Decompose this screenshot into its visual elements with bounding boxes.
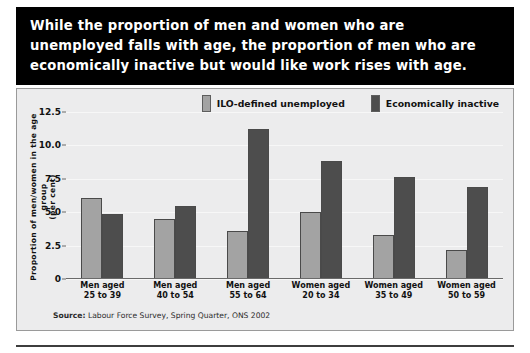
- bar[interactable]: [467, 187, 488, 279]
- bar-groups: [66, 112, 503, 279]
- bar-group: [81, 112, 123, 279]
- category-label: Women aged50 to 59: [433, 281, 501, 300]
- category-label-line: Men aged: [141, 281, 209, 291]
- source-prefix: Source:: [53, 311, 86, 320]
- category-label-line: 55 to 64: [214, 291, 282, 301]
- bottom-rule: [16, 345, 514, 347]
- category-label: Men aged40 to 54: [141, 281, 209, 300]
- legend-item-unemployed: ILO-defined unemployed: [202, 95, 345, 112]
- category-label-line: 40 to 54: [141, 291, 209, 301]
- chart-panel: ILO-defined unemployed Economically inac…: [16, 88, 514, 331]
- y-tick-label: 10.0: [39, 140, 61, 150]
- bar[interactable]: [394, 177, 415, 279]
- plot-area: 02.55.07.510.012.5: [66, 112, 503, 279]
- chart-legend: ILO-defined unemployed Economically inac…: [17, 95, 513, 112]
- category-label-line: Women aged: [360, 281, 428, 291]
- bar-group: [446, 112, 488, 279]
- bar[interactable]: [446, 250, 467, 279]
- bar-group: [227, 112, 269, 279]
- legend-label-unemployed: ILO-defined unemployed: [217, 98, 345, 109]
- bar[interactable]: [248, 129, 269, 279]
- category-label-line: 25 to 39: [68, 291, 136, 301]
- source-text: Labour Force Survey, Spring Quarter, ONS…: [88, 311, 270, 320]
- y-axis-title: Proportion of men/women in the age group…: [29, 111, 45, 283]
- gridline: [66, 279, 503, 280]
- category-label: Women aged20 to 34: [287, 281, 355, 300]
- bar[interactable]: [81, 198, 102, 279]
- y-tick-label: 0: [55, 274, 61, 284]
- figure-root: While the proportion of men and women wh…: [0, 0, 530, 353]
- bar-group: [300, 112, 342, 279]
- legend-swatch-unemployed: [202, 95, 211, 112]
- x-axis-line: [66, 278, 503, 279]
- source-note: Source: Labour Force Survey, Spring Quar…: [53, 311, 270, 320]
- bar-group: [373, 112, 415, 279]
- bar[interactable]: [154, 219, 175, 279]
- y-tick-label: 12.5: [39, 107, 61, 117]
- category-label: Men aged25 to 39: [68, 281, 136, 300]
- bar[interactable]: [373, 235, 394, 279]
- category-label-line: Men aged: [214, 281, 282, 291]
- y-tick-label: 7.5: [45, 174, 61, 184]
- category-label-line: Men aged: [68, 281, 136, 291]
- category-label: Women aged35 to 49: [360, 281, 428, 300]
- category-label: Men aged55 to 64: [214, 281, 282, 300]
- category-label-line: Women aged: [433, 281, 501, 291]
- bar-group: [154, 112, 196, 279]
- legend-label-inactive: Economically inactive: [386, 98, 499, 109]
- y-tick-label: 2.5: [45, 241, 61, 251]
- category-label-line: 35 to 49: [360, 291, 428, 301]
- title-line-2: unemployed falls with age, the proportio…: [30, 36, 500, 56]
- category-label-line: 50 to 59: [433, 291, 501, 301]
- legend-item-inactive: Economically inactive: [371, 95, 499, 112]
- category-labels: Men aged25 to 39Men aged40 to 54Men aged…: [66, 281, 503, 300]
- legend-swatch-inactive: [371, 95, 380, 112]
- bar[interactable]: [175, 206, 196, 279]
- category-label-line: 20 to 34: [287, 291, 355, 301]
- title-line-1: While the proportion of men and women wh…: [30, 16, 500, 36]
- y-tick-label: 5.0: [45, 207, 61, 217]
- title-line-3: economically inactive but would like wor…: [30, 56, 500, 76]
- category-label-line: Women aged: [287, 281, 355, 291]
- bar[interactable]: [227, 231, 248, 279]
- y-axis-title-line-2: (per cent): [48, 111, 58, 283]
- bar[interactable]: [300, 212, 321, 279]
- y-axis-title-line-1: Proportion of men/women in the age group: [29, 111, 48, 283]
- bar[interactable]: [321, 161, 342, 279]
- title-banner: While the proportion of men and women wh…: [16, 7, 514, 85]
- bar[interactable]: [102, 214, 123, 279]
